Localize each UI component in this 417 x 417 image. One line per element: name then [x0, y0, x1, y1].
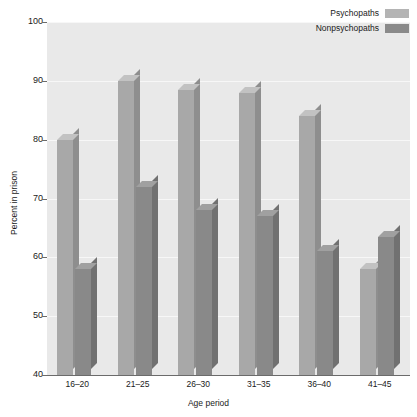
y-tick-label: 80: [13, 135, 43, 144]
x-tick-label: 31–35: [224, 379, 294, 389]
bar-psychopaths-31–35: [239, 93, 255, 375]
bar-psychopaths-16–20: [57, 140, 73, 375]
bar-psychopaths-36–40: [299, 116, 315, 375]
y-tick-label: 100: [13, 17, 43, 26]
bar-face: [75, 269, 91, 375]
legend: PsychopathsNonpsychopaths: [316, 8, 409, 33]
gridline: [47, 81, 410, 82]
legend-item-nonpsychopaths: Nonpsychopaths: [316, 23, 409, 33]
gridline: [47, 140, 410, 141]
y-tick-label: 90: [13, 76, 43, 85]
y-axis-title: Percent in prison: [9, 148, 19, 258]
x-axis-title: Age period: [0, 398, 417, 408]
bar-psychopaths-21–25: [118, 81, 134, 375]
bar-psychopaths-41–45: [360, 269, 376, 375]
gridline: [47, 199, 410, 200]
bar-face: [360, 269, 376, 375]
x-tick-label: 41–45: [345, 379, 415, 389]
y-tick-label: 40: [13, 370, 43, 379]
bar-psychopaths-26–30: [178, 90, 194, 375]
y-tick-mark: [42, 257, 47, 258]
bar-nonpsychopaths-41–45: [378, 237, 394, 375]
y-tick-mark: [42, 140, 47, 141]
x-tick-label: 16–20: [42, 379, 112, 389]
bar-side: [91, 257, 97, 369]
bar-chart: 100908070605040 16–2021–2526–3031–3536–4…: [0, 0, 417, 417]
plot-area: [47, 22, 410, 375]
y-tick-label: 50: [13, 311, 43, 320]
bar-face: [317, 251, 333, 375]
y-tick-mark: [42, 199, 47, 200]
x-tick-label: 36–40: [284, 379, 354, 389]
legend-swatch: [385, 9, 409, 18]
bar-nonpsychopaths-26–30: [196, 210, 212, 375]
gridline: [47, 257, 410, 258]
bar-face: [378, 237, 394, 375]
y-tick-mark: [42, 22, 47, 23]
bar-face: [57, 140, 73, 375]
gridline: [47, 316, 410, 317]
bar-nonpsychopaths-16–20: [75, 269, 91, 375]
y-tick-mark: [42, 316, 47, 317]
bar-face: [196, 210, 212, 375]
legend-item-psychopaths: Psychopaths: [330, 8, 409, 18]
bar-side: [394, 225, 400, 369]
bar-side: [152, 175, 158, 369]
bar-side: [273, 204, 279, 369]
x-tick-label: 21–25: [103, 379, 173, 389]
bar-nonpsychopaths-36–40: [317, 251, 333, 375]
bar-side: [333, 239, 339, 369]
x-tick-label: 26–30: [163, 379, 233, 389]
bar-face: [257, 216, 273, 375]
bar-nonpsychopaths-31–35: [257, 216, 273, 375]
bar-nonpsychopaths-21–25: [136, 187, 152, 375]
bar-side: [212, 198, 218, 369]
legend-swatch: [385, 24, 409, 33]
bar-face: [136, 187, 152, 375]
bar-face: [178, 90, 194, 375]
legend-label: Psychopaths: [330, 8, 379, 18]
bar-face: [239, 93, 255, 375]
bar-face: [118, 81, 134, 375]
y-tick-mark: [42, 81, 47, 82]
bar-face: [299, 116, 315, 375]
x-axis-line: [47, 375, 410, 376]
legend-label: Nonpsychopaths: [316, 23, 379, 33]
